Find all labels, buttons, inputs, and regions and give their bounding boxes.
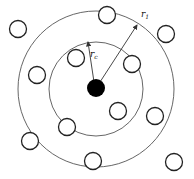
neighbor-particle <box>10 21 27 38</box>
neighbor-particle <box>68 50 85 67</box>
arrow-r1 <box>100 25 137 82</box>
neighbor-particle <box>147 108 164 125</box>
center-particle <box>87 79 105 97</box>
arrow-rc <box>88 42 94 82</box>
label-rc: rc <box>90 49 98 60</box>
neighbor-particle <box>158 26 175 43</box>
particle-shell-diagram: rc r1 <box>0 0 194 179</box>
neighbor-particle <box>59 119 76 136</box>
neighbor-particle <box>166 154 183 171</box>
neighbor-particle <box>124 56 141 73</box>
neighbor-particle <box>85 153 102 170</box>
neighbor-particle <box>29 67 46 84</box>
neighbor-particle <box>99 7 116 24</box>
neighbor-particle <box>110 103 127 120</box>
label-r1: r1 <box>141 9 149 20</box>
neighbor-particle <box>22 133 39 150</box>
